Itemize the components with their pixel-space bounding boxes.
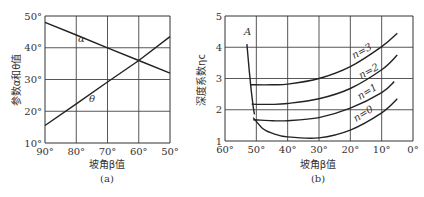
chart-b-y-tick-label: 5 [216, 11, 222, 22]
chart-a-panel-label: (a) [100, 173, 114, 184]
chart-a-y-tick-label: 50° [24, 11, 42, 22]
chart-b-curve-a-label: A [243, 26, 251, 37]
chart-a-x-tick-label: 60° [130, 146, 148, 157]
chart-a-y-tick-label: 30° [24, 74, 42, 85]
chart-a-ticks: 90°80°70°60°50°10°20°30°40°50° [24, 11, 179, 158]
chart-a-x-tick-label: 50° [161, 146, 179, 157]
chart-b-x-tick-label: 10° [373, 144, 391, 155]
chart-a-x-tick-label: 70° [99, 146, 117, 157]
chart-a-grid [45, 16, 170, 143]
chart-a-xlabel: 坡角β值 [89, 158, 125, 170]
chart-b-y-tick-label: 1 [216, 136, 222, 147]
chart-b-ylabel: 深度系数ηc [195, 54, 207, 106]
chart-b-x-tick-label: 0° [407, 144, 418, 155]
chart-b-x-tick-label: 20° [341, 144, 359, 155]
chart-a: 90°80°70°60°50°10°20°30°40°50° α θ 坡角β值 … [10, 11, 179, 185]
chart-b-xlabel: 坡角β值 [300, 158, 336, 170]
chart-b-y-tick-label: 2 [216, 104, 222, 115]
chart-a-y-tick-label: 10° [24, 138, 42, 149]
chart-a-y-tick-label: 40° [24, 42, 42, 53]
chart-a-y-tick-label: 20° [24, 106, 42, 117]
chart-a-alpha-label: α [78, 33, 85, 44]
chart-b: 60°50°40°30°20°10°0°12345 A n=3 n=2 n=1 … [195, 11, 419, 185]
chart-b-y-tick-label: 4 [216, 42, 222, 53]
chart-a-ylabel: 参数α和θ值 [10, 54, 22, 107]
chart-a-theta-label: θ [89, 93, 95, 104]
chart-b-series-n-3 [250, 33, 397, 85]
chart-b-panel-label: (b) [311, 173, 325, 184]
chart-b-n3-label: n=3 [350, 41, 374, 61]
chart-a-x-tick-label: 80° [67, 146, 85, 157]
figure: 90°80°70°60°50°10°20°30°40°50° α θ 坡角β值 … [0, 0, 424, 197]
chart-b-x-tick-label: 50° [247, 144, 265, 155]
chart-b-y-tick-label: 3 [216, 73, 222, 84]
chart-b-x-tick-label: 40° [279, 144, 297, 155]
chart-b-x-tick-label: 30° [310, 144, 328, 155]
